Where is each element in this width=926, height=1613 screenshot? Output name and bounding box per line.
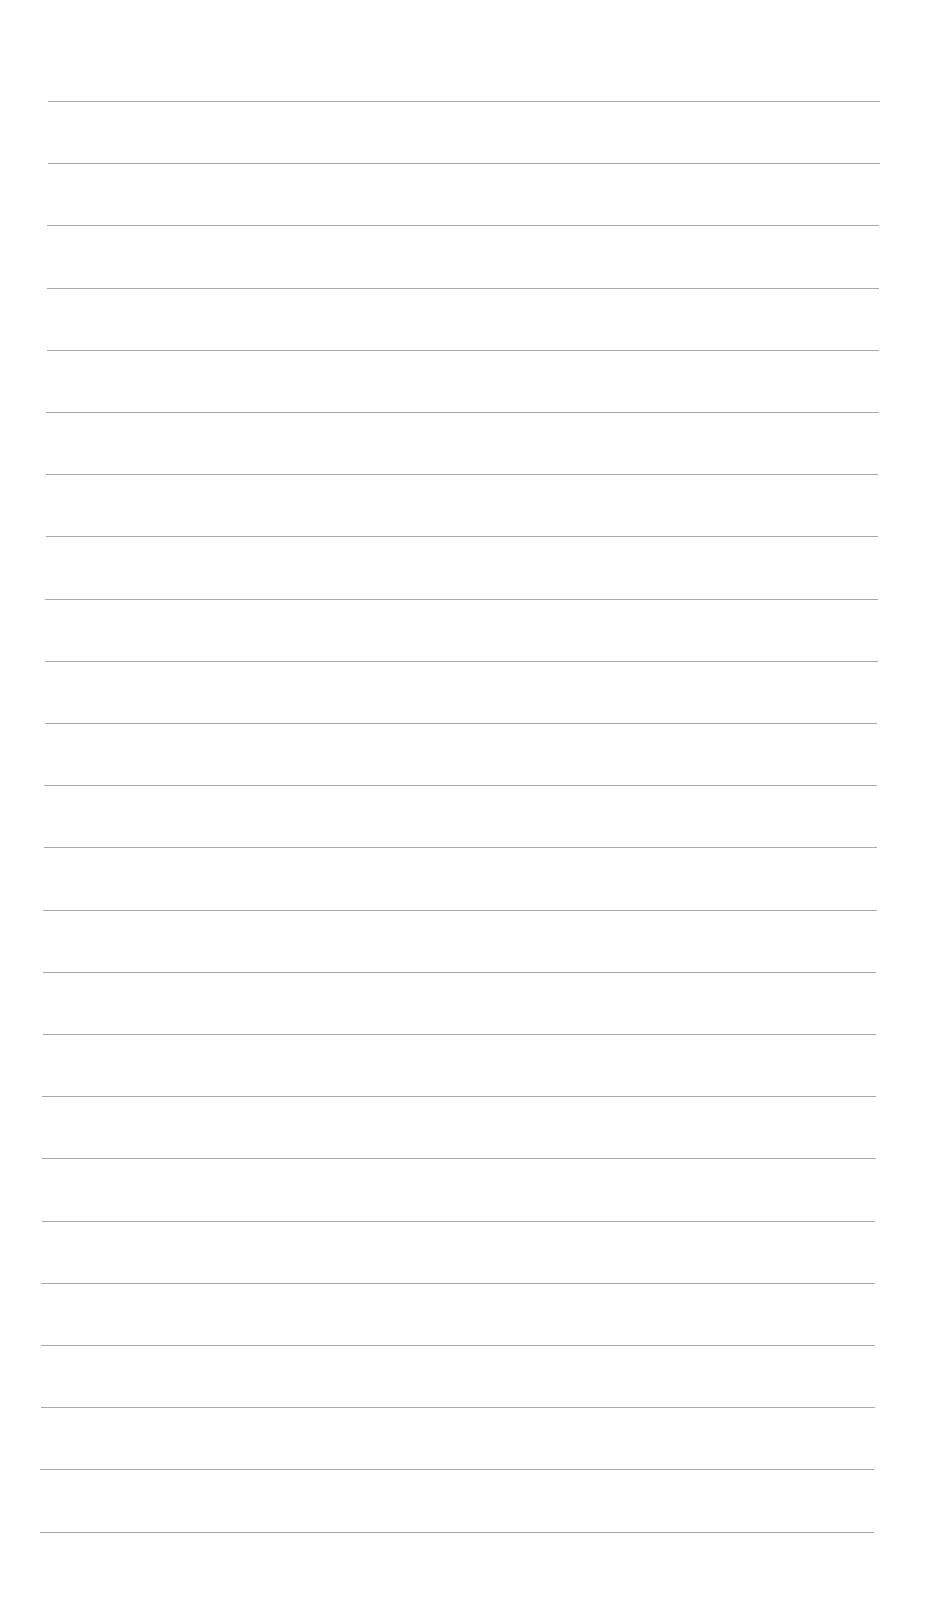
ruled-line — [45, 599, 878, 600]
ruled-line — [47, 288, 879, 289]
ruled-line — [46, 536, 879, 537]
ruled-line — [44, 847, 877, 848]
ruled-line — [44, 785, 877, 786]
ruled-line — [41, 1407, 875, 1408]
ruled-line — [40, 1532, 874, 1533]
ruled-line — [48, 163, 880, 164]
ruled-line — [47, 225, 879, 226]
ruled-line — [48, 101, 880, 102]
ruled-line — [41, 1345, 875, 1346]
ruled-line — [42, 1221, 876, 1222]
ruled-line — [46, 412, 878, 413]
ruled-line — [45, 661, 878, 662]
ruled-line — [45, 723, 878, 724]
ruled-line — [41, 1283, 875, 1284]
ruled-line — [46, 474, 879, 475]
ruled-line — [43, 1034, 876, 1035]
ruled-line — [47, 350, 879, 351]
ruled-line — [43, 910, 876, 911]
ruled-line — [42, 1096, 875, 1097]
ruled-line — [40, 1469, 874, 1470]
ruled-line — [43, 972, 876, 973]
ruled-line — [42, 1158, 875, 1159]
lined-paper-page — [0, 0, 926, 1613]
